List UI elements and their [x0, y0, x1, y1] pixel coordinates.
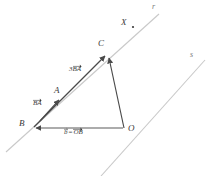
vector-BA-shaft — [40, 100, 59, 121]
point-label-X: X — [121, 18, 127, 27]
point-X-marker — [132, 26, 134, 28]
vector-label-3BA: 3 BA — [69, 66, 81, 73]
point-label-B: B — [19, 119, 25, 128]
line-s — [101, 60, 205, 176]
vector-OC-shaft — [109, 58, 124, 128]
point-label-C: C — [98, 39, 104, 48]
vector-label-BA: BA — [33, 100, 42, 107]
vector-label-b-text: b — [64, 129, 68, 136]
point-label-A: A — [54, 86, 60, 95]
vector-label-b-equals-OB: b = OB — [64, 129, 83, 136]
line-label-r: r — [152, 3, 155, 11]
vector-label-BA-text: BA — [33, 100, 42, 107]
point-label-O: O — [128, 124, 135, 133]
figure-canvas — [0, 0, 209, 176]
vector-label-3BA-text: BA — [73, 66, 82, 73]
vector-geometry-figure: A B C O X r s BA 3 BA — [0, 0, 209, 176]
vector-label-OB-text: OB — [73, 129, 82, 136]
line-label-s: s — [190, 51, 193, 59]
